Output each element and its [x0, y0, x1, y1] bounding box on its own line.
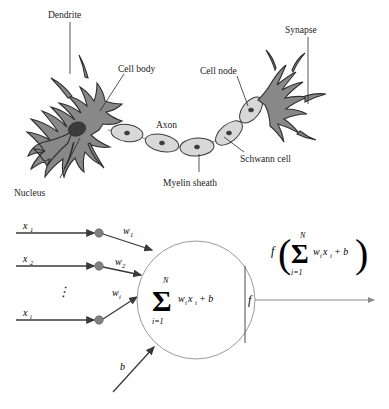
input-label-x1: x	[22, 220, 28, 231]
weight-label-wi: w	[112, 287, 119, 298]
input-node-dot-2	[95, 262, 103, 270]
input-label-x1-sub: 1	[30, 226, 33, 233]
weight-label-wi-sub: i	[119, 293, 121, 300]
label-nucleus: Nucleus	[14, 188, 45, 198]
summation-x: x	[187, 293, 193, 304]
weight-label-w1-sub: 1	[130, 231, 133, 238]
summation-w-sub: i	[185, 299, 187, 306]
label-cell-body: Cell body	[118, 64, 155, 74]
input-ellipsis: ⋮	[57, 284, 70, 299]
neuron-figure: Dendrite Cell body Cell node Synapse Axo…	[0, 0, 389, 409]
output-x-sub: i	[330, 252, 332, 259]
input-label-xi: x	[22, 307, 28, 318]
bias-label: b	[120, 361, 125, 372]
input-label-x2: x	[22, 253, 28, 264]
input-node-dot-1	[95, 229, 103, 237]
weight-label-w2: w	[115, 256, 122, 267]
input-label-xi-sub: i	[30, 313, 32, 320]
output-plus-bias: + b	[334, 246, 348, 257]
summation-x-sub: i	[195, 299, 197, 306]
label-axon: Axon	[156, 120, 177, 130]
output-upper-limit: N	[299, 231, 306, 240]
label-synapse: Synapse	[285, 25, 317, 35]
label-dendrite: Dendrite	[48, 10, 81, 20]
label-cell-node: Cell node	[200, 66, 237, 76]
output-sigma: Σ	[291, 239, 309, 269]
input-node-dot-3	[95, 316, 103, 324]
summation-upper-limit: N	[162, 276, 169, 285]
output-w-sub: i	[320, 252, 322, 259]
summation-w: w	[178, 293, 185, 304]
output-x: x	[322, 246, 328, 257]
summation-sigma: Σ	[152, 284, 172, 317]
label-schwann-cell: Schwann cell	[240, 154, 291, 164]
summation-lower-limit: i=1	[152, 317, 164, 326]
weight-label-w1: w	[123, 225, 130, 236]
output-open-paren: (	[278, 231, 291, 276]
label-myelin-sheath: Myelin sheath	[163, 178, 217, 188]
summation-plus-bias: + b	[199, 293, 213, 304]
output-w: w	[313, 246, 320, 257]
output-lower-limit: i=1	[291, 268, 303, 277]
output-close-paren: )	[355, 231, 368, 276]
